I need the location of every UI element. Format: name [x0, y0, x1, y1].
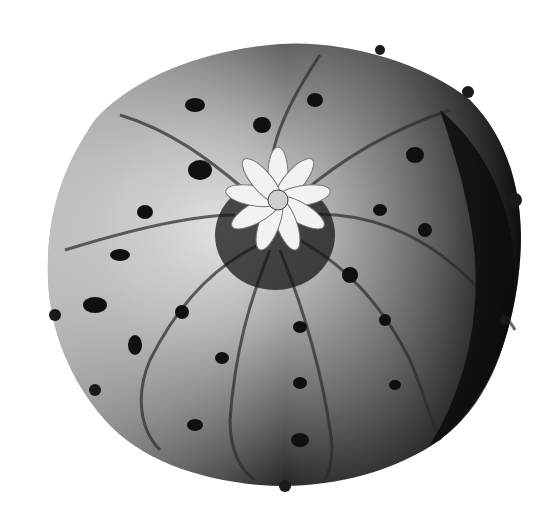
cactus-photo — [0, 0, 537, 531]
cactus-illustration — [0, 0, 537, 531]
